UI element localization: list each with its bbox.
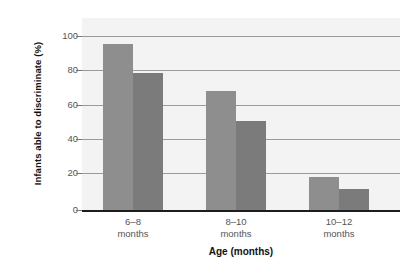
x-tick-unit-1: months [181,228,291,240]
bar-6-8-months-series-1 [103,44,133,211]
x-tick-range-0: 6–8 [78,216,188,228]
x-axis-title: Age (months) [82,246,400,257]
y-tick-label-40: 40 [38,134,78,144]
bar-6-8-months-series-2 [133,73,163,211]
x-tick-label-6-8-months: 6–8 months [78,216,188,239]
x-tick-unit-0: months [78,228,188,240]
y-tick-label-60: 60 [38,100,78,110]
y-axis-title: Infants able to discriminate (%) [32,14,43,214]
x-tick-label-8-10-months: 8–10 months [181,216,291,239]
plot-area [82,18,400,211]
x-tick-unit-2: months [284,228,394,240]
x-tick-range-2: 10–12 [284,216,394,228]
y-tick-label-80: 80 [38,65,78,75]
bar-10-12-months-series-1 [309,177,339,211]
y-tick-label-100: 100 [38,31,78,41]
x-tick-label-10-12-months: 10–12 months [284,216,394,239]
x-axis-line [82,210,400,212]
bar-chart-figure: Infants able to discriminate (%) 100 80 … [0,0,418,273]
bar-10-12-months-series-2 [339,189,369,211]
bar-8-10-months-series-2 [236,121,266,211]
x-tick-range-1: 8–10 [181,216,291,228]
gridline-100 [82,36,400,37]
y-tick-label-20: 20 [38,168,78,178]
y-tick-label-0: 0 [38,205,78,215]
bar-8-10-months-series-1 [206,91,236,211]
